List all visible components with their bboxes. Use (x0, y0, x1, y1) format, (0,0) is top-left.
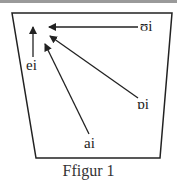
figure-caption: Ffigur 1 (0, 162, 177, 180)
arrow-ai (45, 44, 89, 134)
label-ei: ei (26, 58, 37, 73)
label-ai: ai (84, 136, 95, 151)
label-ui: ʊi (140, 19, 152, 34)
label-oi: ɒi (137, 97, 149, 112)
arrow-oi (50, 36, 138, 98)
